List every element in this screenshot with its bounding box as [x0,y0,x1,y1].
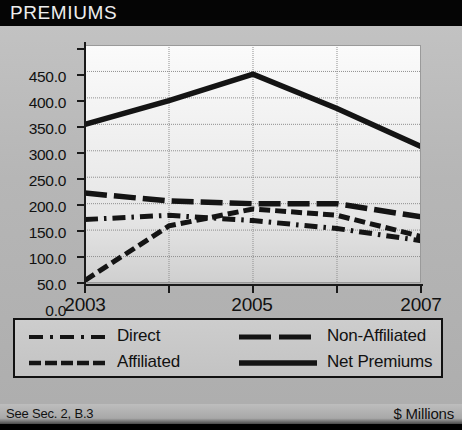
chart-legend: Direct Non-Affiliated Affiliated Net Pre… [13,318,443,378]
footer-bar: See Sec. 2, B.3 $ Millions [0,404,462,430]
footer-source-note: See Sec. 2, B.3 [6,406,93,421]
legend-label: Non-Affiliated [327,326,426,346]
legend-swatch-long-dash [235,324,321,350]
x-tick-label: 2005 [212,294,292,316]
title-bar: PREMIUMS [0,0,462,26]
legend-label: Direct [117,326,160,346]
series-canvas [85,45,421,283]
legend-swatch-solid [235,350,321,376]
legend-item-net-premiums: Net Premiums [235,350,445,376]
gridlines [85,45,421,283]
y-tick-label: 200.0 [0,198,66,216]
x-axis-tick [168,285,170,293]
legend-label: Net Premiums [327,352,432,372]
chart-plot-region: 450.0 400.0 350.0 300.0 250.0 200.0 150.… [0,26,462,296]
y-tick-label: 450.0 [0,68,66,86]
y-tick-label: 400.0 [0,94,66,112]
legend-label: Affiliated [117,352,180,372]
x-axis-tick [336,285,338,293]
x-axis-tick [252,285,254,293]
x-axis-tick [420,285,422,293]
legend-swatch-short-dash [25,350,111,376]
legend-item-direct: Direct [25,324,225,350]
y-axis-line [84,42,86,286]
y-tick-label: 50.0 [0,276,66,294]
x-tick-label: 2007 [381,294,461,316]
legend-swatch-dash-dot [25,324,111,350]
y-tick-label: 100.0 [0,250,66,268]
y-tick-label: 350.0 [0,120,66,138]
y-tick-label: 150.0 [0,224,66,242]
page-title: PREMIUMS [10,2,117,24]
x-axis-tick [84,285,86,293]
chart-screenshot: PREMIUMS 450.0 400.0 350.0 300.0 250.0 2… [0,0,462,430]
y-tick-label: 250.0 [0,172,66,190]
chart-panel: 450.0 400.0 350.0 300.0 250.0 200.0 150.… [0,26,462,404]
footer-units-label: $ Millions [393,405,454,422]
footer-black-strip [0,424,462,430]
legend-item-affiliated: Affiliated [25,350,225,376]
plot-area [85,45,421,283]
y-tick-label: 300.0 [0,146,66,164]
x-tick-label: 2003 [45,294,125,316]
legend-item-non-affiliated: Non-Affiliated [235,324,445,350]
